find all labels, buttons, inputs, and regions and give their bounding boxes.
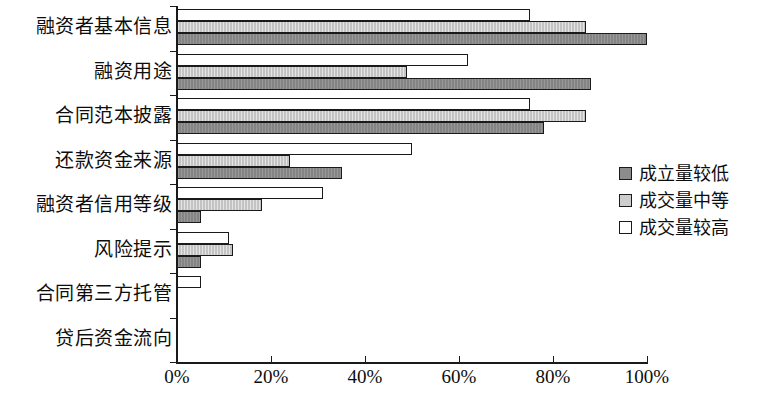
bar-0-5 bbox=[177, 256, 201, 268]
bar-2-0 bbox=[177, 9, 530, 21]
x-axis-tick bbox=[647, 356, 648, 363]
bar-0-4 bbox=[177, 211, 201, 223]
bar-1-1 bbox=[177, 66, 407, 78]
bar-0-3 bbox=[177, 167, 342, 179]
legend-item[interactable]: 成立量较低 bbox=[619, 160, 729, 187]
y-axis-tick bbox=[170, 6, 177, 7]
y-axis-tick bbox=[170, 140, 177, 141]
x-axis-tick-label: 40% bbox=[348, 366, 383, 388]
bar-1-4 bbox=[177, 199, 262, 211]
bar-1-3 bbox=[177, 155, 290, 167]
x-axis-tick-label: 80% bbox=[536, 366, 571, 388]
bar-0-2 bbox=[177, 122, 544, 134]
bar-0-1 bbox=[177, 78, 591, 90]
x-axis-tick bbox=[553, 356, 554, 363]
legend-item[interactable]: 成交量较高 bbox=[619, 214, 729, 241]
category-label: 融资者信用等级 bbox=[36, 195, 173, 214]
category-label: 合同范本披露 bbox=[55, 106, 172, 125]
x-axis-line bbox=[176, 362, 648, 364]
category-label: 融资者基本信息 bbox=[36, 17, 173, 36]
bar-2-5 bbox=[177, 232, 229, 244]
x-axis-tick bbox=[459, 356, 460, 363]
category-label: 合同第三方托管 bbox=[36, 284, 173, 303]
bar-2-6 bbox=[177, 276, 201, 288]
dark-gray-swatch bbox=[619, 167, 632, 180]
white-swatch bbox=[619, 221, 632, 234]
bar-2-4 bbox=[177, 187, 323, 199]
category-label: 还款资金来源 bbox=[55, 151, 172, 170]
bar-2-3 bbox=[177, 143, 412, 155]
bar-0-0 bbox=[177, 33, 647, 45]
chart-legend: 成立量较低成交量中等成交量较高 bbox=[619, 160, 729, 241]
bar-1-5 bbox=[177, 244, 233, 256]
bar-chart: 融资者基本信息融资用途合同范本披露还款资金来源融资者信用等级风险提示合同第三方托… bbox=[0, 0, 761, 393]
y-axis-tick bbox=[170, 184, 177, 185]
x-axis-tick-label: 60% bbox=[442, 366, 477, 388]
legend-item[interactable]: 成交量中等 bbox=[619, 187, 729, 214]
plot-area bbox=[177, 6, 647, 361]
y-axis-tick bbox=[170, 229, 177, 230]
y-axis-tick bbox=[170, 95, 177, 96]
x-axis-tick-label: 0% bbox=[164, 366, 189, 388]
bar-2-2 bbox=[177, 98, 530, 110]
x-axis-tick bbox=[271, 356, 272, 363]
x-axis-tick bbox=[365, 356, 366, 363]
category-label: 贷后资金流向 bbox=[55, 329, 172, 348]
bar-1-2 bbox=[177, 110, 586, 122]
y-axis-tick bbox=[170, 273, 177, 274]
legend-label: 成立量较低 bbox=[639, 165, 729, 183]
bar-2-1 bbox=[177, 54, 468, 66]
y-axis-tick bbox=[170, 318, 177, 319]
y-axis-tick bbox=[170, 51, 177, 52]
legend-label: 成交量中等 bbox=[639, 192, 729, 210]
legend-label: 成交量较高 bbox=[639, 219, 729, 237]
category-label: 风险提示 bbox=[94, 240, 172, 259]
light-gray-swatch bbox=[619, 194, 632, 207]
x-axis-tick bbox=[177, 356, 178, 363]
bar-1-0 bbox=[177, 21, 586, 33]
x-axis-tick-label: 20% bbox=[254, 366, 289, 388]
category-label: 融资用途 bbox=[94, 62, 172, 81]
x-axis-tick-label: 100% bbox=[625, 366, 669, 388]
